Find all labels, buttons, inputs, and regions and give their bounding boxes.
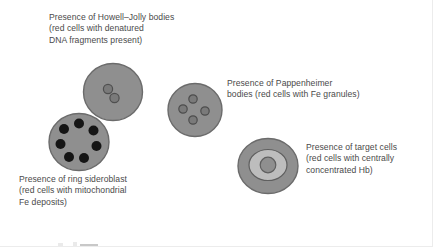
fe-granule xyxy=(189,116,197,124)
caption-ring-sideroblast: Presence of ring sideroblast (red cells … xyxy=(19,174,184,208)
howell-jolly-body xyxy=(103,84,112,93)
fe-granule xyxy=(179,105,187,113)
caption-target-cells: Presence of target cells (red cells with… xyxy=(306,142,433,176)
fe-deposit xyxy=(59,124,69,134)
ring-sideroblast-cell xyxy=(48,112,110,172)
caption-howell-jolly: Presence of Howell–Jolly bodies (red cel… xyxy=(49,12,209,46)
fe-granule xyxy=(201,107,209,115)
howell-jolly-body xyxy=(110,93,119,102)
fe-deposit xyxy=(56,139,66,149)
page-artifact-mark xyxy=(73,242,77,246)
blood-cell-morphology-figure: Presence of Howell–Jolly bodies (red cel… xyxy=(0,0,433,247)
caption-pappenheimer: Presence of Pappenheimer bodies (red cel… xyxy=(227,78,387,101)
fe-deposit xyxy=(64,152,74,162)
fe-deposit xyxy=(74,119,84,129)
page-artifact-mark xyxy=(58,243,63,246)
central-hb xyxy=(260,157,276,173)
fe-deposit xyxy=(79,153,89,163)
fe-deposit xyxy=(89,126,99,136)
cell-body xyxy=(168,84,222,137)
page-artifact-rule xyxy=(80,244,98,246)
target-cell xyxy=(237,137,299,195)
fe-deposit xyxy=(92,141,102,151)
pappenheimer-cell xyxy=(167,82,223,138)
fe-granule xyxy=(189,95,197,103)
